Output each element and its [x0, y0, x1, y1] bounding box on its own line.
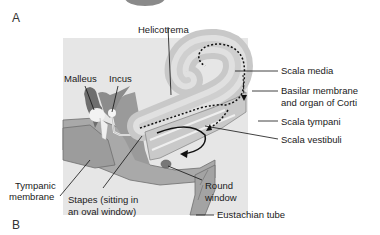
- label-scala-media: Scala media: [281, 65, 333, 76]
- label-incus: Incus: [109, 73, 132, 84]
- label-round-window-1: Round: [205, 180, 233, 191]
- label-scala-vestibuli: Scala vestibuli: [281, 134, 342, 145]
- label-malleus: Malleus: [64, 73, 97, 84]
- label-eustachian-tube: Eustachian tube: [217, 209, 285, 220]
- label-scala-tympani: Scala tympani: [281, 116, 341, 127]
- label-round-window-2: window: [205, 192, 237, 203]
- label-basilar-membrane-1: Basilar membrane: [281, 85, 358, 96]
- label-tympanic-2: membrane: [9, 191, 54, 202]
- label-stapes-2: an oval window): [68, 206, 136, 217]
- panel-label-a: A: [12, 11, 20, 25]
- label-stapes-1: Stapes (sitting in: [68, 194, 138, 205]
- label-basilar-membrane-2: and organ of Corti: [281, 97, 357, 108]
- label-tympanic-1: Tympanic: [15, 180, 56, 191]
- panel-label-b: B: [12, 218, 20, 232]
- cropped-figure-top: [125, 0, 165, 6]
- label-helicotrema: Helicotrema: [138, 24, 189, 35]
